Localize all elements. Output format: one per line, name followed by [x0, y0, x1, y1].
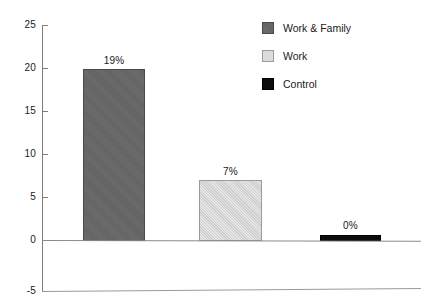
legend-swatch-icon-control — [262, 78, 274, 90]
legend-label-control: Control — [283, 78, 317, 90]
axis-bottom-line — [42, 288, 421, 292]
y-tick-label-5: 5 — [10, 192, 36, 202]
y-tick-mark-25 — [42, 25, 48, 26]
y-tick-mark-10 — [42, 154, 48, 155]
y-tick-label-10: 10 — [10, 149, 36, 159]
y-tick-label--5-wrap: -5 — [0, 286, 36, 296]
bar-chart: 25 20 15 10 5 0 -5 19% 7% 0% Work & Fami… — [0, 0, 421, 307]
y-axis-line — [42, 25, 43, 292]
y-tick-mark-15 — [42, 111, 48, 112]
y-tick-label--5: -5 — [10, 286, 36, 296]
y-tick-label-15: 15 — [10, 106, 36, 116]
legend-label-work: Work — [283, 50, 307, 62]
y-tick-mark-20 — [42, 68, 48, 69]
y-tick-label-10-wrap: 10 — [0, 149, 36, 159]
bar-value-work: 7% — [199, 167, 262, 177]
legend-swatch-icon-work-and-family — [262, 22, 274, 34]
bar-value-work-and-family: 19% — [83, 56, 145, 66]
legend: Work & Family Work Control — [262, 22, 351, 106]
y-tick-label-0: 0 — [10, 235, 36, 245]
legend-label-work-and-family: Work & Family — [283, 22, 351, 34]
legend-item-work: Work — [262, 50, 351, 62]
bar-work — [199, 180, 262, 241]
bar-work-and-family — [83, 69, 145, 241]
y-tick-label-25-wrap: 25 — [0, 20, 36, 30]
bar-value-control: 0% — [320, 221, 381, 231]
y-tick-label-25: 25 — [10, 20, 36, 30]
y-tick-mark-5 — [42, 197, 48, 198]
legend-swatch-icon-work — [262, 50, 274, 62]
zero-baseline — [42, 240, 421, 242]
y-tick-label-5-wrap: 5 — [0, 192, 36, 202]
y-tick-label-0-wrap: 0 — [0, 235, 36, 245]
legend-item-work-and-family: Work & Family — [262, 22, 351, 34]
y-tick-label-15-wrap: 15 — [0, 106, 36, 116]
y-tick-label-20: 20 — [10, 63, 36, 73]
legend-item-control: Control — [262, 78, 351, 90]
y-tick-label-20-wrap: 20 — [0, 63, 36, 73]
